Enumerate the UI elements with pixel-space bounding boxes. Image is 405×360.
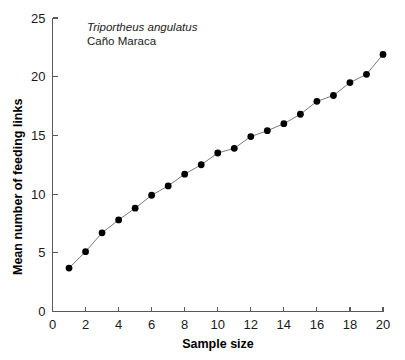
- data-point-marker: [198, 161, 205, 168]
- x-tick-label: 10: [211, 317, 225, 332]
- y-tick-label-group: 0510152025: [31, 11, 45, 320]
- y-tick-label: 25: [31, 11, 45, 26]
- x-tick-label: 20: [376, 317, 390, 332]
- data-point-marker: [330, 92, 337, 99]
- data-point-marker: [214, 150, 221, 157]
- x-tick-label: 14: [277, 317, 291, 332]
- y-tick-group: [53, 18, 58, 312]
- x-tick-label: 2: [82, 317, 89, 332]
- data-point-marker: [280, 120, 287, 127]
- x-tick-label: 12: [244, 317, 258, 332]
- series-line: [69, 54, 383, 268]
- series-marker-group: [66, 51, 387, 271]
- data-point-marker: [247, 133, 254, 140]
- x-tick-label: 4: [115, 317, 122, 332]
- x-tick-group: [53, 307, 384, 312]
- data-point-marker: [115, 217, 122, 224]
- annotation-site-name: Caño Maraca: [87, 35, 157, 47]
- x-tick-label: 0: [49, 317, 56, 332]
- y-tick-label: 10: [31, 187, 45, 202]
- data-point-marker: [181, 171, 188, 178]
- data-point-marker: [231, 145, 238, 152]
- data-point-marker: [264, 127, 271, 134]
- y-tick-label: 15: [31, 128, 45, 143]
- data-point-marker: [148, 192, 155, 199]
- x-tick-label: 6: [148, 317, 155, 332]
- x-tick-label: 16: [310, 317, 324, 332]
- y-axis-title: Mean number of feeding links: [11, 99, 25, 275]
- data-point-marker: [347, 79, 354, 86]
- x-tick-label: 18: [343, 317, 357, 332]
- annotation-species-name: Triportheus angulatus: [87, 21, 198, 33]
- x-axis-title: Sample size: [182, 337, 254, 351]
- x-tick-label: 8: [181, 317, 188, 332]
- data-point-marker: [363, 71, 370, 78]
- data-point-marker: [66, 265, 73, 272]
- y-tick-label: 20: [31, 69, 45, 84]
- accumulation-curve-chart: 0510152025 02468101214161820 Mean number…: [0, 0, 405, 360]
- data-point-marker: [380, 51, 387, 58]
- figure-container: 0510152025 02468101214161820 Mean number…: [0, 0, 405, 360]
- data-point-marker: [297, 111, 304, 118]
- x-tick-label-group: 02468101214161820: [49, 317, 390, 332]
- y-tick-label: 5: [38, 245, 45, 260]
- data-point-marker: [165, 182, 172, 189]
- data-point-marker: [99, 229, 106, 236]
- y-tick-label: 0: [38, 304, 45, 319]
- data-point-marker: [314, 98, 321, 105]
- data-point-marker: [132, 205, 139, 212]
- data-point-marker: [82, 248, 89, 255]
